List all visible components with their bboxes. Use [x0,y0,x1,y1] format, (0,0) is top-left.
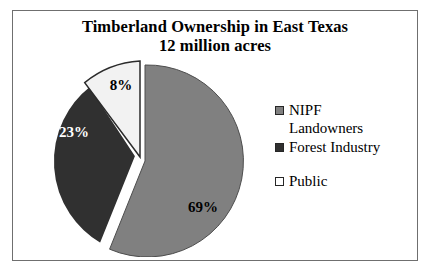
legend-item-nipf-landowners[interactable]: NIPF Landowners [275,101,425,137]
white-swatch-icon [275,177,284,186]
page-title: Timberland Ownership in East Texas 12 mi… [13,17,417,55]
gray-swatch-icon [275,106,284,115]
figure: Timberland Ownership in East Texas 12 mi… [0,0,432,268]
legend-item-public[interactable]: Public [275,172,425,190]
legend-item-label: NIPF Landowners [289,101,363,137]
legend: NIPF Landowners Forest Industry Public [275,101,425,191]
legend-item-forest-industry[interactable]: Forest Industry [275,138,425,156]
legend-item-label: Public [289,172,327,190]
pie-chart: 69% 23% 8% [31,57,259,257]
pie-label-nipf: 69% [188,199,218,215]
legend-item-label: Forest Industry [289,138,380,156]
dark-swatch-icon [275,143,284,152]
pie-label-public: 8% [110,77,133,93]
chart-frame: Timberland Ownership in East Texas 12 mi… [12,10,418,261]
pie-label-forest-industry: 23% [59,124,89,140]
pie-svg: 69% 23% 8% [31,57,259,257]
